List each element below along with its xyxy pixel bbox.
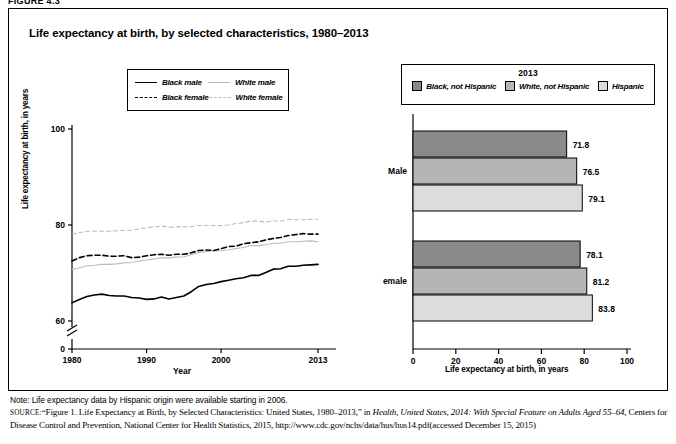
svg-text:Female: Female [383, 276, 407, 286]
svg-text:2000: 2000 [212, 355, 231, 365]
svg-text:83.8: 83.8 [598, 304, 615, 314]
svg-text:60: 60 [537, 356, 547, 366]
svg-text:79.1: 79.1 [588, 194, 605, 204]
svg-text:100: 100 [620, 356, 634, 366]
figure-note: Note: Life expectancy data by Hispanic o… [10, 395, 288, 405]
figure-frame: Life expectancy at birth, by selected ch… [8, 8, 668, 391]
figure-tag: FIGURE 4.3 [8, 0, 60, 6]
line-chart-svg: 060801001980199020002013 [23, 59, 373, 384]
svg-text:78.1: 78.1 [586, 250, 603, 260]
bar-chart-panel: 2013 Black, not Hispanic White, not Hisp… [383, 59, 661, 384]
line-chart-panel: Black male White male Black female White [23, 59, 373, 384]
svg-text:71.8: 71.8 [573, 140, 590, 150]
source-prefix: SOURCE: [10, 409, 42, 417]
svg-text:100: 100 [51, 124, 65, 134]
svg-text:2013: 2013 [309, 355, 328, 365]
svg-text:1980: 1980 [63, 355, 82, 365]
svg-text:1990: 1990 [137, 355, 156, 365]
bar-chart-svg: 02040608010071.876.579.1Male78.181.283.8… [383, 59, 661, 384]
figure-source: SOURCE:“Figure 1. Life Expectancy at Bir… [10, 407, 668, 431]
source-text-1: “Figure 1. Life Expectancy at Birth, by … [42, 407, 373, 417]
figure-root: FIGURE 4.3 Life expectancy at birth, by … [0, 0, 676, 444]
svg-text:60: 60 [56, 316, 66, 326]
svg-text:80: 80 [579, 356, 589, 366]
figure-title: Life expectancy at birth, by selected ch… [29, 27, 368, 39]
svg-text:20: 20 [451, 356, 461, 366]
svg-text:81.2: 81.2 [593, 277, 610, 287]
svg-text:40: 40 [494, 356, 504, 366]
svg-text:76.5: 76.5 [583, 167, 600, 177]
svg-text:0: 0 [411, 356, 416, 366]
svg-text:0: 0 [60, 344, 65, 354]
svg-text:Male: Male [388, 166, 407, 176]
source-italic-1: Health, United States, 2014: With Specia… [373, 407, 625, 417]
svg-text:80: 80 [56, 220, 66, 230]
